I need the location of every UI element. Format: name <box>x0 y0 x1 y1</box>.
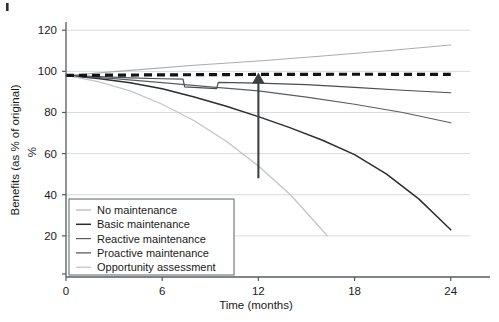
legend-label-proactive-maintenance: Proactive maintenance <box>97 247 209 259</box>
y-axis-unit-label: % <box>26 147 38 157</box>
crop-corner-mark <box>6 3 9 11</box>
y-tick-label-60: 60 <box>44 148 57 160</box>
chart-screenshot: 06121824 20406080100120 Time (months) Be… <box>0 0 499 322</box>
y-tick-label-80: 80 <box>44 106 57 118</box>
y-tick-label-40: 40 <box>44 189 57 201</box>
legend-label-basic-maintenance: Basic maintenance <box>97 218 190 230</box>
legend-label-reactive-maintenance: Reactive maintenance <box>97 233 206 245</box>
y-axis-title: Benefits (as % of original) <box>9 84 21 215</box>
legend-label-no-maintenance: No maintenance <box>97 204 177 216</box>
benefits-over-time-line-chart: 06121824 20406080100120 Time (months) Be… <box>0 0 499 322</box>
chart-legend: No maintenanceBasic maintenanceReactive … <box>69 199 234 275</box>
x-tick-label-18: 18 <box>348 285 361 297</box>
y-tick-label-20: 20 <box>44 230 57 242</box>
y-tick-label-100: 100 <box>38 65 57 77</box>
x-tick-label-24: 24 <box>444 285 457 297</box>
x-tick-label-0: 0 <box>63 285 69 297</box>
legend-label-opportunity-assessment: Opportunity assessment <box>97 261 216 273</box>
x-tick-label-6: 6 <box>159 285 165 297</box>
x-tick-label-12: 12 <box>252 285 265 297</box>
y-tick-label-120: 120 <box>38 24 57 36</box>
x-axis-title: Time (months) <box>219 299 293 311</box>
